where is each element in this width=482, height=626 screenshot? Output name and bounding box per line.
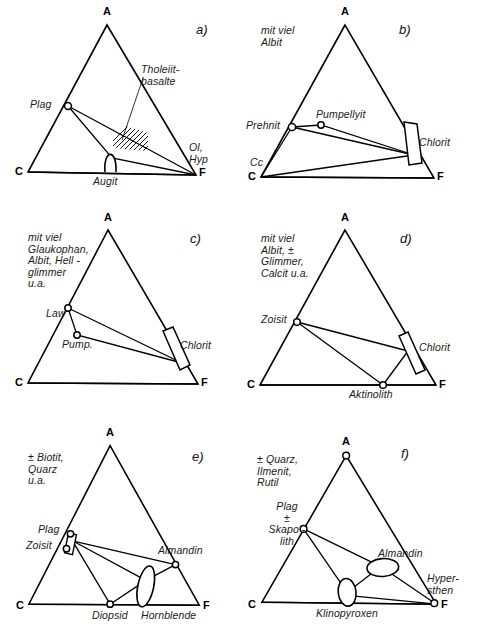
clipped-caption-strip	[0, 617, 482, 626]
mineral-label-zoisit: Zoisit	[261, 314, 287, 326]
panel-id-b: b)	[399, 22, 411, 37]
node-plag	[65, 103, 72, 110]
almandin-lens	[366, 558, 399, 578]
vertex-label-c: C	[15, 376, 23, 388]
vertex-label-c: C	[16, 599, 24, 611]
panel-id-f: f)	[401, 446, 409, 461]
vertex-label-a: A	[103, 5, 111, 17]
vertex-label-f: F	[203, 599, 210, 611]
mineral-label-chlorit: Chlorit	[419, 137, 450, 149]
mineral-label-plag: Plag	[30, 99, 51, 111]
tieline-zoisit-chlorit	[297, 322, 408, 351]
hornblende-lens	[134, 564, 158, 608]
mineral-label-plag-skapolith: Plag ± Skapo - lith	[256, 501, 318, 547]
tieline-prehnit-chlorit	[292, 127, 414, 155]
node-plag	[67, 531, 73, 537]
node-prehnit	[288, 123, 295, 130]
node-hypersthen	[431, 600, 438, 607]
panel-note-f: ± Quarz, Ilmenit, Rutil	[257, 454, 298, 489]
vertex-label-f: F	[437, 170, 444, 182]
mineral-label-zoisit: Zoisit	[26, 540, 52, 552]
node-zoisit	[294, 319, 301, 326]
vertex-label-a: A	[342, 435, 350, 447]
vertex-label-f: F	[441, 598, 448, 610]
tieline-cc-chlorit	[261, 155, 414, 177]
vertex-label-a: A	[106, 426, 114, 438]
tieline-cc-prehnit	[261, 127, 292, 177]
panel-a: A C F a) Plag Augit Tholeiit- basalte Ol…	[0, 0, 241, 208]
vertex-label-a: A	[341, 5, 349, 17]
annotation-ol-hyp: Ol, Hyp	[189, 142, 208, 165]
panel-note-b: mit viel Albit	[261, 25, 294, 48]
panel-note-d: mit viel Albit, ± Glimmer, Calcit u.a.	[261, 233, 309, 279]
tholeiite-leader-line	[122, 78, 143, 140]
node-zoisit	[63, 546, 69, 552]
tieline-plag-f	[68, 106, 196, 175]
vertex-label-f: F	[199, 166, 206, 178]
panel-note-c: mit viel Glaukophan, Albit, Hell - glimm…	[28, 232, 89, 290]
vertex-label-c: C	[248, 170, 256, 182]
mineral-label-aktinolith: Aktinolith	[349, 389, 393, 401]
mineral-label-law: Law	[46, 308, 66, 320]
tholeiite-basalt-field	[96, 112, 187, 158]
panel-e: A C F e) ± Biotit, Quarz u.a. Plag Zoisi…	[0, 416, 241, 626]
panel-f: A C F f) ± Quarz, Ilmenit, Rutil Plag ± …	[241, 416, 482, 626]
panel-id-c: c)	[190, 231, 201, 246]
vertex-label-c: C	[248, 598, 256, 610]
mineral-label-almandin: Almandin	[378, 548, 423, 560]
panel-c: A C F c) mit viel Glaukophan, Albit, Hel…	[0, 208, 241, 416]
mineral-label-prehnit: Prehnit	[246, 120, 280, 132]
panel-e-diagram	[0, 416, 241, 624]
mineral-label-hypersthen: Hyper- sthen	[427, 573, 459, 596]
tieline-aktinolith-chlorit	[383, 351, 408, 385]
panel-d: A C F d) mit viel Albit, ± Glimmer, Calc…	[241, 208, 482, 416]
panel-id-d: d)	[400, 231, 412, 246]
vertex-label-c: C	[247, 378, 255, 390]
mineral-label-almandin: Almandin	[158, 545, 203, 557]
mineral-label-plag: Plag	[38, 524, 59, 536]
mineral-label-pumpellyit: Pumpellyit	[316, 109, 365, 121]
vertex-label-c: C	[15, 165, 23, 177]
vertex-label-a: A	[104, 211, 112, 223]
node-pumpellyit	[318, 122, 324, 128]
tieline-plagzoisit-hornblende	[72, 541, 145, 581]
mineral-label-augit: Augit	[93, 176, 117, 188]
node-diopsid	[107, 601, 113, 607]
ternary-triangle	[28, 25, 196, 175]
panel-id-e: e)	[192, 449, 204, 464]
panel-note-e: ± Biotit, Quarz u.a.	[28, 452, 64, 487]
vertex-label-f: F	[439, 378, 446, 390]
augit-lens	[105, 154, 116, 172]
panel-id-a: a)	[196, 22, 208, 37]
node-almandin	[172, 561, 178, 567]
mineral-label-chlorit: Chlorit	[419, 342, 450, 354]
tieline-zoisit-aktinolith	[297, 322, 383, 385]
vertex-label-a: A	[341, 211, 349, 223]
mineral-label-pump: Pump.	[62, 339, 93, 351]
panel-b: A C F b) mit viel Albit Prehnit Pumpelly…	[241, 0, 482, 208]
annotation-tholeiit-basalte: Tholeiit- basalte	[141, 64, 179, 87]
mineral-label-chlorit: Chlorit	[180, 340, 211, 352]
mineral-label-cc: Cc	[250, 157, 263, 169]
figure-canvas: A C F a) Plag Augit Tholeiit- basalte Ol…	[0, 0, 482, 626]
node-a-vertex	[343, 452, 350, 459]
vertex-label-f: F	[201, 376, 208, 388]
